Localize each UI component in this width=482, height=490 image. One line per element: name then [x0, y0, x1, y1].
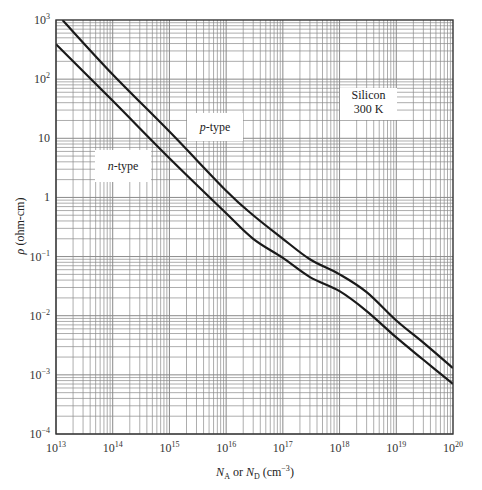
x-tick-label: 1018: [330, 440, 350, 455]
annotation-label: n-type: [108, 159, 139, 173]
grid: [56, 20, 453, 434]
x-tick-label: 1017: [273, 440, 293, 455]
y-tick-label: 10−4: [29, 426, 50, 441]
y-axis-label: ρ (ohm-cm): [13, 198, 27, 256]
x-tick-label: 1013: [46, 440, 66, 455]
y-tick-label: 10−3: [29, 367, 50, 382]
annotation-label: Silicon: [351, 88, 385, 102]
y-tick-label: 10: [38, 131, 50, 145]
x-axis-ticks: 10131014101510161017101810191020: [46, 440, 463, 455]
x-axis-label: NA or ND (cm−3): [215, 464, 294, 481]
y-axis-ticks: 10−410−310−210−1110102103: [29, 12, 50, 441]
x-tick-label: 1020: [443, 440, 463, 455]
y-tick-label: 1: [44, 190, 50, 204]
y-tick-label: 103: [34, 12, 50, 27]
y-tick-label: 102: [34, 71, 50, 86]
x-tick-label: 1014: [103, 440, 123, 455]
x-tick-label: 1015: [159, 440, 179, 455]
y-tick-label: 10−1: [29, 249, 50, 264]
annotation-label: p-type: [199, 120, 231, 134]
annotation-label: 300 K: [354, 102, 384, 116]
resistivity-chart: 10131014101510161017101810191020 10−410−…: [0, 0, 482, 490]
y-tick-label: 10−2: [29, 308, 50, 323]
x-tick-label: 1019: [386, 440, 406, 455]
x-tick-label: 1016: [216, 440, 236, 455]
